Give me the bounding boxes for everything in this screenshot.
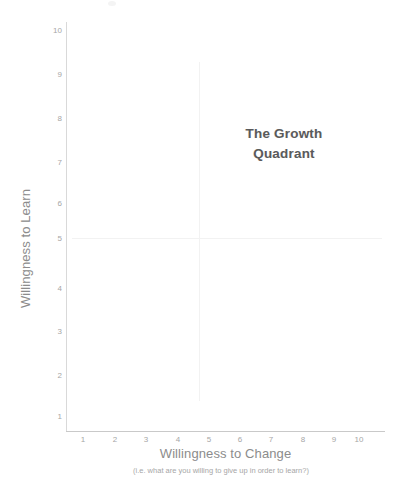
- x-tick-label: 10: [349, 435, 369, 444]
- x-tick-label: 3: [136, 435, 156, 444]
- x-axis-tick-labels: 1 2 3 4 5 6 7 8 9 10: [0, 0, 402, 494]
- growth-quadrant-line-1: The Growth: [214, 124, 354, 144]
- x-tick-label: 7: [261, 435, 281, 444]
- x-tick-label: 2: [105, 435, 125, 444]
- x-tick-label: 9: [324, 435, 344, 444]
- x-tick-label: 4: [168, 435, 188, 444]
- x-tick-label: 1: [73, 435, 93, 444]
- x-tick-label: 8: [293, 435, 313, 444]
- growth-quadrant-annotation: The Growth Quadrant: [214, 124, 354, 163]
- x-tick-label: 6: [230, 435, 250, 444]
- y-axis-title: Willingness to Learn: [18, 169, 33, 329]
- growth-quadrant-line-2: Quadrant: [214, 144, 354, 164]
- quadrant-chart: 10 9 8 7 6 5 4 3 2 1 1 2 3 4 5 6 7 8 9 1…: [0, 0, 402, 494]
- x-axis-title: Willingness to Change: [66, 446, 385, 461]
- x-tick-label: 5: [199, 435, 219, 444]
- x-axis-subtitle: (i.e. what are you willing to give up in…: [56, 466, 386, 475]
